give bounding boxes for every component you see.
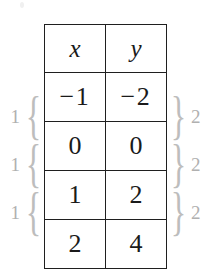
scan-artifact-speck (20, 2, 24, 8)
y-difference-label-1: 2 (191, 107, 201, 126)
cell-x-row2: 0 (45, 122, 106, 171)
table-row: 2 4 (45, 220, 167, 269)
right-brace-icon: } (171, 145, 186, 182)
cell-y-row3: 2 (106, 171, 167, 220)
table-of-values: x y −1 −2 0 0 1 2 2 4 (44, 24, 167, 269)
cell-x-row3: 1 (45, 171, 106, 220)
y-difference-annotation-3: } 2 (166, 184, 206, 240)
cell-y-row1: −2 (106, 73, 167, 122)
x-difference-label-1: 1 (11, 107, 21, 126)
column-header-y: y (106, 25, 167, 73)
table-row: 1 2 (45, 171, 167, 220)
cell-x-row4: 2 (45, 220, 106, 269)
column-header-x: x (45, 25, 106, 73)
x-difference-label-2: 1 (11, 155, 21, 174)
cell-x-row1: −1 (45, 73, 106, 122)
left-brace-icon: { (26, 97, 41, 134)
cell-y-row4: 4 (106, 220, 167, 269)
table-body: x y −1 −2 0 0 1 2 2 4 (45, 25, 167, 269)
figure-canvas: x y −1 −2 0 0 1 2 2 4 1 { 1 (0, 0, 207, 280)
x-difference-annotation-3: 1 { (8, 184, 46, 240)
right-brace-icon: } (171, 193, 186, 230)
left-brace-icon: { (26, 193, 41, 230)
x-difference-label-3: 1 (11, 203, 21, 222)
cell-y-row2: 0 (106, 122, 167, 171)
table-row: 0 0 (45, 122, 167, 171)
y-difference-label-3: 2 (191, 203, 201, 222)
table-header-row: x y (45, 25, 167, 73)
left-brace-icon: { (26, 145, 41, 182)
y-difference-label-2: 2 (191, 155, 201, 174)
table-row: −1 −2 (45, 73, 167, 122)
right-brace-icon: } (171, 97, 186, 134)
